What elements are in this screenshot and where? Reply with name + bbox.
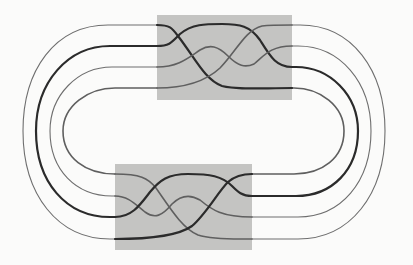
left-arc-inner <box>63 88 157 174</box>
braid-diagram-canvas <box>0 0 413 265</box>
bottom-braid-box <box>115 164 252 250</box>
braid-closure-diagram: Closure of a 4-strand braid: two shaded … <box>0 0 413 265</box>
right-arc-inner <box>252 88 344 174</box>
